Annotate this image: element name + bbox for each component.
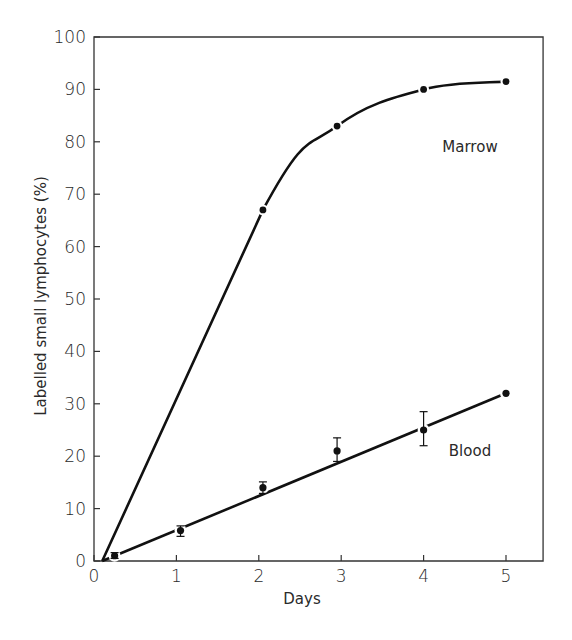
x-tick-label: 4 [418, 566, 429, 586]
blood-point [420, 426, 427, 433]
y-tick-label: 80 [64, 132, 86, 152]
x-tick-label: 2 [253, 566, 264, 586]
x-tick-label: 5 [501, 566, 512, 586]
series-label-blood: Blood [449, 442, 491, 460]
x-tick-label: 3 [336, 566, 347, 586]
y-tick-label: 30 [64, 394, 86, 414]
marrow-point [334, 123, 341, 130]
y-tick-label: 0 [75, 551, 86, 571]
x-axis-ticks: 012345 [89, 555, 512, 586]
y-tick-label: 50 [64, 289, 86, 309]
blood-point [111, 552, 118, 559]
y-tick-label: 60 [64, 237, 86, 257]
marrow-point [260, 207, 267, 214]
y-axis-title: Labelled small lymphocytes (%) [32, 176, 50, 416]
marrow-point [420, 86, 427, 93]
axes-frame [94, 37, 543, 561]
x-axis-title: Days [283, 590, 321, 608]
y-tick-label: 90 [64, 79, 86, 99]
y-axis-ticks: 0102030405060708090100 [54, 27, 100, 571]
blood-point [502, 390, 509, 397]
blood-point [177, 527, 184, 534]
y-tick-label: 100 [54, 27, 86, 47]
chart: 0102030405060708090100 012345 Days Label… [0, 0, 572, 640]
axes-box [94, 37, 543, 561]
y-tick-label: 20 [64, 446, 86, 466]
series-label-marrow: Marrow [442, 138, 497, 156]
x-tick-label: 0 [89, 566, 100, 586]
y-tick-label: 10 [64, 499, 86, 519]
y-tick-label: 70 [64, 184, 86, 204]
blood-point [259, 484, 266, 491]
marrow-point [503, 78, 510, 85]
blood-line [102, 393, 506, 561]
x-tick-label: 1 [171, 566, 182, 586]
blood-point [333, 447, 340, 454]
y-tick-label: 40 [64, 341, 86, 361]
